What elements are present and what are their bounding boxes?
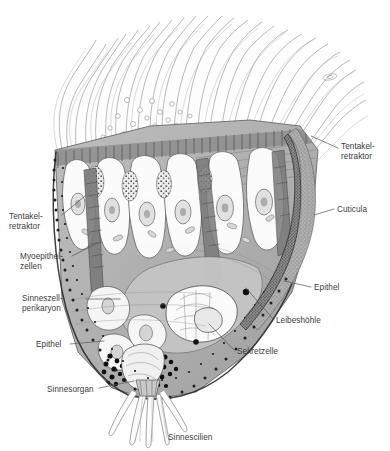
anatomy-drawing <box>0 0 390 451</box>
label-cuticula: Cuticula <box>337 205 367 215</box>
label-sinnescilien: Sinnescilien <box>168 433 212 443</box>
label-leibeshoehle: Leibeshöhle <box>276 316 321 326</box>
label-tentakel-retraktor-right: Tentakel- retraktor <box>341 142 375 163</box>
label-sinneszell-perikaryon: Sinneszell- perikaryon <box>22 294 63 315</box>
label-sekretzelle: Sekretzelle <box>237 347 278 357</box>
label-sinnesorgan: Sinnesorgan <box>47 385 94 395</box>
label-epithel-right: Epithel <box>314 283 339 293</box>
label-tentakel-retraktor-left: Tentakel- retraktor <box>9 212 43 233</box>
anatomical-figure: Tentakel- retraktorCuticulaTentakel- ret… <box>0 0 390 451</box>
label-myoepithel-zellen: Myoepithel- zellen <box>20 252 63 273</box>
label-epithel-left: Epithel <box>36 340 61 350</box>
